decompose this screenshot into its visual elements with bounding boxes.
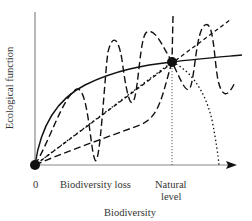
x-tick-level: level — [161, 191, 181, 203]
origin-point — [30, 160, 40, 170]
x-tick-biodiversity-loss: Biodiversity loss — [60, 179, 131, 191]
curve-oscillating-vertical — [172, 16, 173, 62]
x-tick-natural: Natural — [155, 179, 187, 191]
natural-level-point — [167, 57, 177, 67]
curve-saturating — [35, 55, 242, 165]
x-axis-label: Biodiversity — [104, 207, 156, 219]
curve-linear-collapse — [35, 62, 219, 165]
origin-label: 0 — [33, 179, 38, 191]
y-axis-label: Ecological function — [4, 47, 15, 130]
curve-oscillating — [35, 25, 235, 165]
